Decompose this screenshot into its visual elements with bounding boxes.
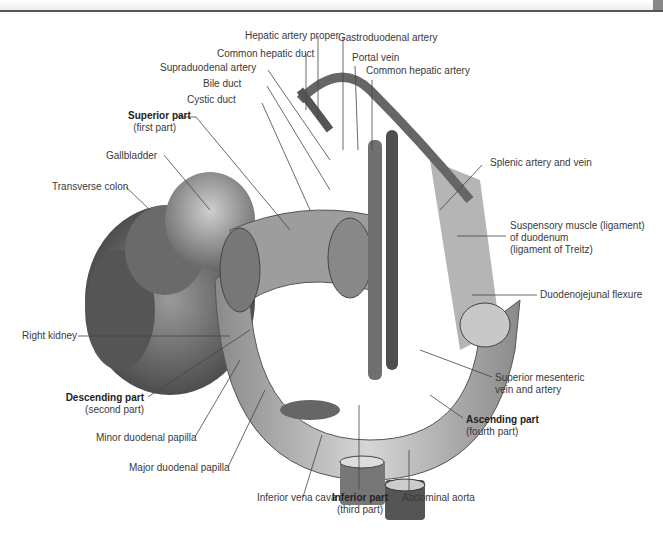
sup-mesenteric-line-2: vein and artery	[495, 384, 584, 396]
label-major-duodenal-papilla: Major duodenal papilla	[129, 462, 230, 474]
label-transverse-colon: Transverse colon	[52, 181, 128, 193]
label-bile-duct: Bile duct	[203, 78, 241, 90]
sup-mesenteric-line-1: Superior mesenteric	[495, 372, 584, 384]
label-gastroduodenal-artery: Gastroduodenal artery	[338, 32, 438, 44]
duodenum-illustration	[0, 0, 663, 539]
superior-part-sub: (first part)	[128, 122, 176, 134]
label-inferior-part: Inferior part (third part)	[330, 492, 390, 516]
label-duodenojejunal-flexure: Duodenojejunal flexure	[540, 289, 642, 301]
label-splenic-artery-vein: Splenic artery and vein	[490, 157, 592, 169]
label-suspensory-muscle: Suspensory muscle (ligament) of duodenum…	[510, 220, 645, 256]
suspensory-line-2: of duodenum	[510, 232, 645, 244]
label-gallbladder: Gallbladder	[106, 150, 157, 162]
label-descending-part: Descending part (second part)	[50, 392, 144, 416]
ascending-part-title: Ascending part	[466, 414, 539, 425]
label-superior-mesenteric: Superior mesenteric vein and artery	[495, 372, 584, 396]
label-abdominal-aorta: Abdominal aorta	[402, 492, 475, 504]
inferior-part-sub: (third part)	[330, 504, 390, 516]
label-cystic-duct: Cystic duct	[187, 94, 236, 106]
label-right-kidney: Right kidney	[22, 330, 77, 342]
label-common-hepatic-duct: Common hepatic duct	[217, 48, 314, 60]
descending-part-sub: (second part)	[50, 404, 144, 416]
label-minor-duodenal-papilla: Minor duodenal papilla	[96, 432, 197, 444]
sma-vessel	[368, 140, 382, 380]
suspensory-line-1: Suspensory muscle (ligament)	[510, 220, 645, 232]
inferior-part-title: Inferior part	[332, 492, 388, 503]
ascending-part-sub: (fourth part)	[466, 426, 539, 438]
descending-part-title: Descending part	[66, 392, 144, 403]
label-common-hepatic-artery: Common hepatic artery	[366, 65, 470, 77]
label-inferior-vena-cava: Inferior vena cava	[257, 492, 337, 504]
label-superior-part: Superior part (first part)	[128, 110, 176, 134]
label-portal-vein: Portal vein	[352, 52, 399, 64]
label-ascending-part: Ascending part (fourth part)	[466, 414, 539, 438]
label-hepatic-artery-proper: Hepatic artery proper	[245, 30, 339, 42]
suspensory-line-3: (ligament of Treitz)	[510, 244, 645, 256]
superior-part-title: Superior part	[128, 110, 191, 121]
label-supraduodenal-artery: Supraduodenal artery	[160, 62, 256, 74]
